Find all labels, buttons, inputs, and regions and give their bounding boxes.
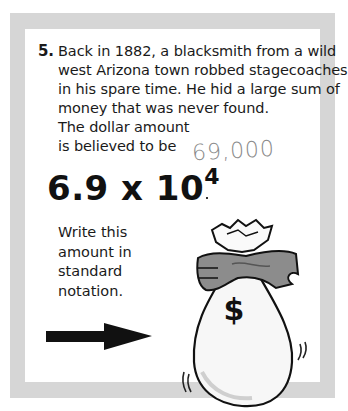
problem-line: in his spare time. He hid a large sum of — [58, 80, 320, 99]
instruction-line: standard — [58, 262, 132, 282]
dollar-sign: $ — [224, 292, 245, 327]
coefficient: 6.9 — [47, 168, 109, 208]
base: 10 — [156, 168, 204, 208]
problem-line: is believed to be — [58, 137, 320, 156]
money-bag-icon: $ — [172, 212, 312, 411]
problem-line: The dollar amount — [58, 118, 320, 137]
right-arrow-icon — [46, 322, 154, 352]
problem-text: Back in 1882, a blacksmith from a wild w… — [58, 42, 320, 156]
instruction-line: amount in — [58, 243, 132, 263]
problem-line: Back in 1882, a blacksmith from a wild — [58, 42, 320, 61]
instruction-line: Write this — [58, 223, 132, 243]
instruction-line: notation. — [58, 282, 132, 302]
operator: x — [121, 168, 143, 208]
problem-number: 5. — [38, 42, 54, 61]
exponent: 4 — [204, 164, 220, 189]
instruction-text: Write this amount in standard notation. — [58, 223, 132, 301]
handwritten-answer: 69,000 — [191, 136, 275, 165]
scientific-notation-expression: 6.9 x 104 — [47, 168, 220, 208]
problem-line: west Arizona town robbed stagecoaches — [58, 61, 320, 80]
problem-line: money that was never found. — [58, 99, 320, 118]
stray-mark — [206, 197, 208, 199]
